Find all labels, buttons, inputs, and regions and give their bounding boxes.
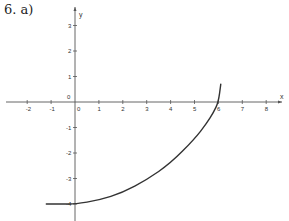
y-tick-label: 1 bbox=[68, 74, 72, 80]
x-axis-arrow-icon bbox=[278, 101, 282, 104]
x-tick-label: -1 bbox=[50, 106, 56, 112]
y-axis-label: y bbox=[79, 11, 83, 19]
x-tick-label: 8 bbox=[265, 106, 269, 112]
plot-area: xy-2-10123456783210-1-2-3-4 bbox=[0, 0, 289, 221]
y-tick-label: -1 bbox=[66, 125, 72, 131]
x-tick-label: 3 bbox=[145, 106, 149, 112]
y-tick-label: 3 bbox=[68, 23, 72, 29]
x-tick-label: 6 bbox=[217, 106, 221, 112]
x-axis-label: x bbox=[280, 93, 284, 100]
x-tick-label: -2 bbox=[26, 106, 32, 112]
y-tick-label: -2 bbox=[66, 150, 72, 156]
x-tick-label: 1 bbox=[97, 106, 101, 112]
y-tick-label: -3 bbox=[66, 176, 72, 182]
y-tick-label: 2 bbox=[68, 48, 72, 54]
x-tick-label: 5 bbox=[193, 106, 197, 112]
x-tick-label: 4 bbox=[169, 106, 173, 112]
x-tick-label: 0 bbox=[77, 106, 81, 112]
y-tick-label: 0 bbox=[67, 94, 71, 100]
x-tick-label: 2 bbox=[121, 106, 125, 112]
x-tick-label: 7 bbox=[241, 106, 245, 112]
y-axis-arrow-icon bbox=[74, 7, 77, 11]
